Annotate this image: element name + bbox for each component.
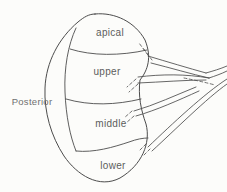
main-trunk-bottom-line <box>209 71 227 78</box>
organ-outline-group <box>45 14 149 182</box>
middle-lower-division <box>76 138 148 151</box>
hilar-vessels-group <box>134 56 227 151</box>
organ-outer-outline <box>45 14 149 182</box>
apical-segment-label: apical <box>96 27 124 38</box>
posterior-band-line <box>65 28 76 151</box>
middle-branch-line-b <box>136 91 199 116</box>
upper-middle-division <box>66 99 141 104</box>
hidden-junction-dash <box>184 78 215 85</box>
figure-canvas: apical upper middle lower Posterior <box>0 0 227 192</box>
lower-segment-label: lower <box>100 160 126 171</box>
upper-segment-label: upper <box>93 66 120 77</box>
hidden-upper-dash-a <box>127 79 136 87</box>
diagram-svg: apical upper middle lower Posterior <box>0 0 227 192</box>
apical-upper-division <box>70 49 147 54</box>
hidden-middle-dash-b <box>126 116 134 123</box>
main-trunk-top-line <box>206 66 227 73</box>
middle-branch-line-a <box>134 87 196 111</box>
lower-branch-line-a <box>148 79 227 147</box>
posterior-side-label: Posterior <box>12 96 53 107</box>
hidden-middle-dash-a <box>124 111 132 118</box>
middle-segment-label: middle <box>95 118 126 129</box>
lower-branch-line-b <box>152 84 227 151</box>
hidden-upper-dash-b <box>129 84 138 92</box>
